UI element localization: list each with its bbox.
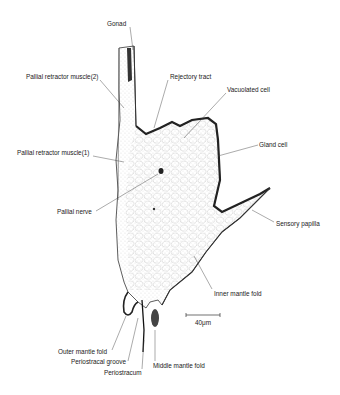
label-periostracum: Periostracum xyxy=(104,370,142,376)
label-outer-mantle-fold: Outer mantle fold xyxy=(58,349,107,355)
scale-bar xyxy=(186,313,220,317)
label-sensory-papilla: Sensory papilla xyxy=(276,221,320,227)
label-pallial-retractor-muscle-2: Pallial retractor muscle(2) xyxy=(26,74,98,80)
label-pallial-retractor-muscle-1: Pallial retractor muscle(1) xyxy=(17,150,89,156)
scale-bar-label: 40μm xyxy=(195,320,211,326)
label-gonad: Gonad xyxy=(107,21,126,27)
label-pallial-nerve: Pallial nerve xyxy=(57,209,92,215)
label-periostracal-groove: Periostracal groove xyxy=(71,359,126,365)
figure-canvas: 40μm Gonad Pallial retractor muscle(2) R… xyxy=(0,0,340,395)
label-vacuolated-cell: Vacuolated cell xyxy=(227,87,270,93)
mantle-section-drawing xyxy=(0,0,340,395)
label-inner-mantle-fold: Inner mantle fold xyxy=(214,291,262,297)
label-gland-cell: Gland cell xyxy=(259,142,287,148)
label-rejectory-tract: Rejectory tract xyxy=(170,74,211,80)
label-middle-mantle-fold: Middle mantle fold xyxy=(153,363,205,369)
